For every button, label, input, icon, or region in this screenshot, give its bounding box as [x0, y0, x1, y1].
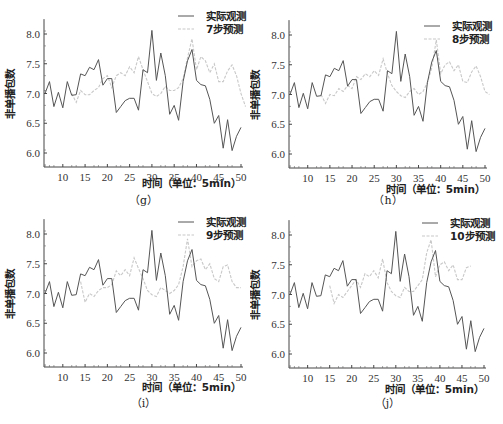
- observed-series-line: [290, 31, 485, 151]
- line-chart-j: 6.06.57.07.58.0101520253035404550非单播包数时间…: [250, 210, 503, 424]
- y-tick-label: 6.0: [271, 148, 285, 160]
- y-tick-label: 8.0: [26, 28, 40, 40]
- x-tick-label: 20: [102, 171, 114, 183]
- y-tick-label: 8.0: [271, 29, 285, 41]
- panel-caption: （j）: [375, 397, 400, 410]
- x-tick-label: 15: [80, 171, 92, 183]
- y-tick-label: 6.5: [26, 317, 40, 329]
- observed-series-line: [45, 30, 241, 150]
- x-tick-label: 10: [302, 172, 314, 184]
- y-tick-label: 6.5: [271, 118, 285, 130]
- y-tick-label: 6.0: [271, 348, 285, 360]
- predicted-series-line: [330, 240, 471, 304]
- chart-panel-i: 6.06.57.07.58.0101520253035404550非单播包数时间…: [0, 210, 250, 424]
- y-tick-label: 7.0: [26, 288, 40, 300]
- y-axis-label: 非单播包数: [4, 68, 16, 119]
- predicted-series-line: [72, 39, 246, 107]
- legend-label-predicted: 9步预测: [206, 229, 243, 241]
- observed-series-line: [45, 230, 241, 350]
- y-axis-label: 非单播包数: [250, 69, 261, 120]
- x-axis-label: 时间（单位：5min）: [142, 381, 241, 393]
- panel-caption: （h）: [373, 194, 402, 207]
- x-tick-label: 25: [124, 171, 136, 183]
- x-tick-label: 25: [369, 172, 381, 184]
- legend-label-observed: 实际观测: [450, 217, 490, 229]
- y-tick-label: 6.5: [271, 318, 285, 330]
- legend-label-predicted: 8步预测: [452, 33, 489, 45]
- y-axis-label: 非单播包数: [4, 268, 16, 319]
- legend: 实际观测7步预测: [178, 10, 246, 35]
- x-tick-label: 25: [368, 372, 380, 384]
- y-tick-label: 7.0: [26, 88, 40, 100]
- line-chart-g: 6.06.57.07.58.0101520253035404550非单播包数时间…: [0, 0, 250, 210]
- y-tick-label: 7.5: [26, 258, 40, 270]
- x-tick-label: 10: [57, 371, 69, 383]
- x-tick-label: 10: [57, 171, 69, 183]
- x-tick-label: 15: [80, 371, 92, 383]
- predicted-series-line: [321, 40, 489, 104]
- legend: 实际观测9步预测: [178, 216, 246, 241]
- legend-label-observed: 实际观测: [452, 20, 492, 32]
- x-tick-label: 15: [324, 372, 336, 384]
- x-axis-label: 时间（单位：5min）: [142, 177, 241, 189]
- line-chart-h: 6.06.57.07.58.0101520253035404550非单播包数时间…: [250, 0, 503, 210]
- legend: 实际观测8步预测: [424, 20, 492, 45]
- x-tick-label: 15: [324, 172, 336, 184]
- legend-label-predicted: 10步预测: [450, 230, 495, 242]
- x-tick-label: 20: [102, 371, 114, 383]
- predicted-series-line: [81, 239, 241, 303]
- y-tick-label: 7.0: [271, 289, 285, 301]
- x-axis-label: 时间（单位：5min）: [385, 383, 484, 395]
- y-tick-label: 8.0: [271, 229, 285, 241]
- y-tick-label: 6.0: [26, 347, 40, 359]
- chart-panel-h: 6.06.57.07.58.0101520253035404550非单播包数时间…: [250, 0, 503, 210]
- x-tick-label: 20: [347, 172, 359, 184]
- y-tick-label: 7.5: [271, 259, 285, 271]
- x-tick-label: 10: [302, 372, 314, 384]
- y-tick-label: 6.5: [26, 117, 40, 129]
- y-tick-label: 7.5: [271, 59, 285, 71]
- legend: 实际观测10步预测: [422, 217, 495, 242]
- y-tick-label: 8.0: [26, 228, 40, 240]
- legend-label-predicted: 7步预测: [206, 23, 243, 35]
- y-tick-label: 7.5: [26, 58, 40, 70]
- chart-panel-g: 6.06.57.07.58.0101520253035404550非单播包数时间…: [0, 0, 250, 210]
- legend-label-observed: 实际观测: [206, 10, 246, 22]
- observed-series-line: [290, 231, 484, 351]
- chart-panel-j: 6.06.57.07.58.0101520253035404550非单播包数时间…: [250, 210, 503, 424]
- legend-label-observed: 实际观测: [206, 216, 246, 228]
- y-tick-label: 7.0: [271, 89, 285, 101]
- x-tick-label: 20: [346, 372, 358, 384]
- y-tick-label: 6.0: [26, 147, 40, 159]
- panel-caption: （i）: [131, 397, 157, 410]
- line-chart-i: 6.06.57.07.58.0101520253035404550非单播包数时间…: [0, 210, 250, 424]
- y-axis-label: 非单播包数: [250, 269, 261, 320]
- x-tick-label: 25: [124, 371, 136, 383]
- panel-caption: （g）: [129, 194, 158, 207]
